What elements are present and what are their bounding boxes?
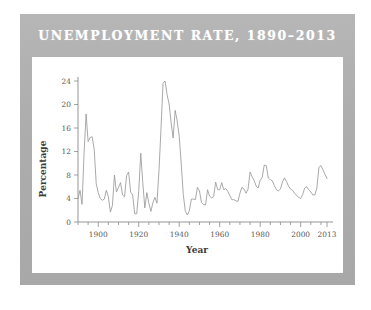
y-tick-label: 4: [66, 194, 71, 203]
y-axis-label: Percentage: [38, 140, 48, 197]
x-tick-label: 1960: [210, 230, 229, 239]
y-tick-label: 20: [62, 100, 72, 109]
x-tick-label: 2000: [291, 230, 310, 239]
x-tick-label: 1920: [129, 230, 148, 239]
series-unemployment-rate: [78, 81, 327, 215]
y-tick-label: 16: [62, 124, 72, 133]
chart-panel: 04812162024 1900192019401960198020002013…: [32, 57, 343, 273]
y-axis: 04812162024: [62, 77, 78, 227]
page-title: UNEMPLOYMENT RATE, 1890–2013: [38, 28, 336, 43]
y-tick-label: 0: [66, 218, 71, 227]
title-band: UNEMPLOYMENT RATE, 1890–2013: [20, 14, 355, 57]
x-axis-label: Year: [185, 245, 208, 255]
y-tick-label: 8: [66, 171, 71, 180]
x-tick-label: 1900: [89, 230, 108, 239]
x-tick-label: 1940: [170, 230, 189, 239]
unemployment-line-chart: 04812162024 1900192019401960198020002013…: [32, 57, 343, 273]
x-tick-label: 1980: [251, 230, 270, 239]
y-tick-label: 12: [62, 147, 71, 156]
x-tick-label: 2013: [318, 230, 337, 239]
y-tick-label: 24: [62, 77, 72, 86]
figure-frame: UNEMPLOYMENT RATE, 1890–2013 04812162024…: [20, 14, 355, 285]
x-axis: 1900192019401960198020002013: [78, 222, 337, 239]
